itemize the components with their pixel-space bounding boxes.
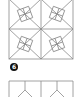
- badge-number: 6: [12, 63, 16, 70]
- bottom-block: [9, 81, 73, 97]
- star-block: [9, 0, 73, 59]
- step-badge: 6: [10, 63, 18, 71]
- y-seam-left: [17, 81, 33, 97]
- diagram-canvas: 6: [0, 0, 82, 97]
- y-seam-right: [49, 81, 65, 97]
